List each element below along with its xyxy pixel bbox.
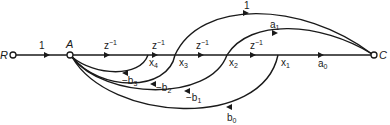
signal-flow-graph: R A C 1 z−1 z−1 z−1 z−1 x4 x3 x2 x1 a0 1… <box>0 0 390 125</box>
label-arc-minus-b1: −b1 <box>186 92 201 104</box>
node-a <box>67 52 73 58</box>
arrow-delay-1 <box>104 52 110 58</box>
arc-x1-to-a <box>72 55 278 109</box>
label-delay-1: z−1 <box>104 39 117 51</box>
label-delay-3: z−1 <box>196 39 209 51</box>
label-arc-1: 1 <box>244 0 250 11</box>
label-arc-b0: b0 <box>227 112 237 124</box>
label-x4: x4 <box>149 57 158 69</box>
node-c <box>371 52 377 58</box>
arrow-input <box>44 52 50 58</box>
label-a0: a0 <box>318 58 328 70</box>
label-arc-minus-b3: −b3 <box>122 75 137 87</box>
label-r: R <box>0 49 8 61</box>
arrow-delay-4 <box>250 52 256 58</box>
label-delay-4: z−1 <box>250 39 263 51</box>
label-delay-2: z−1 <box>152 39 165 51</box>
arc-x4-to-a <box>72 55 148 72</box>
arrow-delay-3 <box>198 52 204 58</box>
arc-x2-to-c <box>227 29 372 55</box>
label-arc-a1: a1 <box>270 19 280 31</box>
label-c: C <box>379 49 387 61</box>
arrow-arc-x1-to-a <box>226 104 232 110</box>
node-r <box>10 52 16 58</box>
label-arc-minus-b2: −b2 <box>156 82 171 94</box>
label-input-gain: 1 <box>39 40 45 51</box>
label-x1: x1 <box>281 57 290 69</box>
label-a: A <box>65 38 73 50</box>
label-x2: x2 <box>229 57 238 69</box>
graph-canvas: R A C 1 z−1 z−1 z−1 z−1 x4 x3 x2 x1 a0 1… <box>0 0 390 125</box>
label-x3: x3 <box>179 57 188 69</box>
